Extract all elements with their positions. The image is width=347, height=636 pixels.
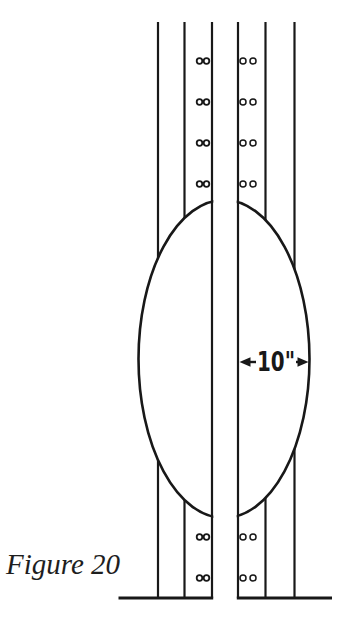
rivet bbox=[204, 58, 210, 64]
rivet bbox=[240, 140, 246, 146]
rivet bbox=[240, 575, 246, 581]
rivet bbox=[197, 140, 203, 146]
rivet bbox=[250, 181, 256, 187]
rivet bbox=[204, 534, 210, 540]
column-gap bbox=[213, 22, 236, 598]
rivet bbox=[250, 575, 256, 581]
dimension-label: 10" bbox=[257, 346, 295, 377]
rivet bbox=[240, 534, 246, 540]
rivet bbox=[197, 99, 203, 105]
rivet bbox=[204, 575, 210, 581]
rivet bbox=[204, 181, 210, 187]
figure-20-diagram: 10" bbox=[0, 0, 347, 636]
rivet bbox=[204, 140, 210, 146]
rivet bbox=[197, 181, 203, 187]
rivet bbox=[197, 534, 203, 540]
page: { "figure": { "caption": "Figure 20", "d… bbox=[0, 0, 347, 636]
rivet bbox=[250, 140, 256, 146]
rivet bbox=[204, 99, 210, 105]
rivet bbox=[240, 58, 246, 64]
rivet bbox=[250, 58, 256, 64]
rivet bbox=[197, 58, 203, 64]
rivet bbox=[197, 575, 203, 581]
figure-caption: Figure 20 bbox=[6, 548, 120, 581]
rivet bbox=[240, 181, 246, 187]
rivet bbox=[250, 534, 256, 540]
rivet bbox=[250, 99, 256, 105]
rivet bbox=[240, 99, 246, 105]
